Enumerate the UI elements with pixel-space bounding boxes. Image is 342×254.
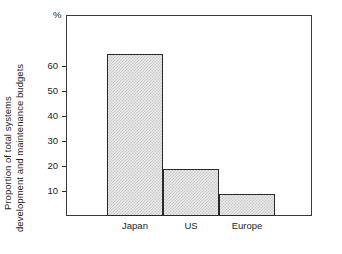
bar-japan (107, 54, 163, 217)
y-tick-label-60: 60 (38, 61, 58, 71)
bar-us (163, 169, 219, 217)
y-tick-label-20: 20 (38, 161, 58, 171)
y-tick-label-10: 10 (38, 186, 58, 196)
bar-chart: Proportion of total systems development … (0, 0, 342, 254)
x-label-us: US (163, 221, 219, 231)
y-tick-label-50: 50 (38, 86, 58, 96)
x-label-europe: Europe (219, 221, 275, 231)
bars-container (66, 15, 312, 216)
y-tick-label-40: 40 (38, 111, 58, 121)
x-label-japan: Japan (107, 221, 163, 231)
bar-europe (219, 194, 275, 217)
y-tick-label-30: 30 (38, 136, 58, 146)
